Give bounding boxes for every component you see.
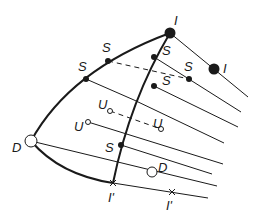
I-right-point (209, 64, 220, 75)
label-Iprime: I' (166, 198, 173, 213)
S-point (151, 54, 157, 60)
diagram-canvas: I I S S S S S S U U U D D I' I' (0, 0, 262, 223)
S-point (118, 142, 124, 148)
label-S: S (105, 140, 114, 155)
label-S: S (78, 59, 87, 74)
line-from-I (170, 33, 248, 97)
S-point (151, 83, 157, 89)
label-S: S (162, 43, 171, 58)
D-big-point (25, 135, 37, 147)
thin-lines (31, 33, 248, 198)
outer-curve (31, 33, 170, 141)
S-point (83, 76, 89, 82)
label-S: S (102, 40, 111, 55)
label-U: U (74, 119, 84, 134)
label-S: S (184, 59, 193, 74)
S-point (105, 58, 111, 64)
label-Iprime: I' (108, 190, 115, 205)
label-D-small: D (158, 160, 167, 175)
label-U: U (98, 97, 108, 112)
D-small-point (147, 167, 157, 177)
label-S: S (162, 73, 171, 88)
label-I-right: I (223, 61, 227, 76)
label-U: U (153, 116, 163, 131)
lower-curve (31, 141, 113, 183)
label-D-big: D (12, 140, 21, 155)
S-point (186, 76, 192, 82)
label-I-top: I (174, 13, 178, 28)
I-top-point (165, 28, 176, 39)
diagram: I I S S S S S S U U U D D I' I' (0, 0, 262, 223)
U-point (86, 120, 91, 125)
U-point (108, 109, 113, 114)
